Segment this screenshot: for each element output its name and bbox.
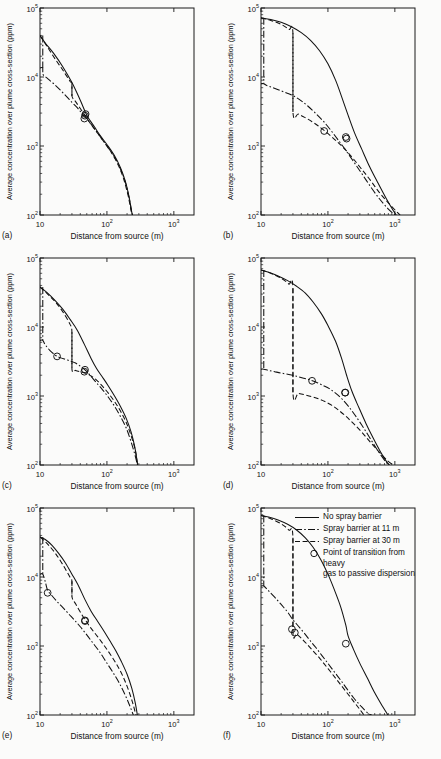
legend-item-barrier-30m: Spray barrier at 30 m [294, 536, 420, 547]
y-tick-exponent: 2 [35, 460, 38, 466]
y-axis-title: Average concentration over plume cross-s… [2, 255, 16, 468]
axis-ticks-e [40, 508, 174, 715]
y-tick-exponent: 2 [35, 710, 38, 716]
chart-panel-f: 10510410310210102103Average concentratio… [220, 500, 441, 759]
x-tick-mantissa: 10 [257, 220, 265, 229]
y-axis-title-text: Average concentration over plume cross-s… [226, 23, 235, 200]
x-tick-exponent: 3 [398, 718, 401, 724]
y-tick-label: 105 [18, 503, 38, 514]
curves-e [40, 537, 137, 715]
x-axis-title-text: Distance from source (m) [291, 481, 384, 491]
y-tick-mantissa: 10 [248, 4, 256, 13]
legend: No spray barrierSpray barrier at 11 mSpr… [294, 512, 420, 581]
legend-key-barrier-30m-icon [294, 536, 320, 547]
y-tick-label: 104 [18, 322, 38, 333]
y-tick-label: 105 [239, 253, 259, 264]
axis-frame-b [261, 8, 415, 215]
y-axis-title-text: Average concentration over plume cross-s… [5, 23, 14, 200]
y-tick-label: 104 [18, 572, 38, 583]
y-tick-exponent: 5 [35, 253, 38, 259]
x-tick-label: 103 [379, 468, 411, 479]
legend-label-barrier-11m: Spray barrier at 11 m [320, 524, 399, 535]
y-axis-title: Average concentration over plume cross-s… [2, 5, 16, 218]
axis-frame-c [40, 258, 194, 465]
y-tick-label: 104 [239, 572, 259, 583]
x-tick-mantissa: 10 [257, 470, 265, 479]
series-line-dashed [40, 287, 138, 465]
x-tick-exponent: 2 [331, 218, 334, 224]
series-line-dash-dot [261, 84, 395, 215]
curves-d [261, 270, 393, 465]
panel-letter-e: (e) [2, 730, 12, 740]
x-tick-mantissa: 10 [389, 470, 397, 479]
legend-label-transition: Point of transition from heavygas to pas… [320, 548, 420, 580]
x-tick-mantissa: 10 [101, 470, 109, 479]
y-tick-mantissa: 10 [248, 323, 256, 332]
y-tick-exponent: 3 [35, 391, 38, 397]
x-tick-mantissa: 10 [168, 470, 176, 479]
x-axis-title: Distance from source (m) [40, 481, 194, 491]
y-tick-mantissa: 10 [248, 504, 256, 513]
y-tick-label: 103 [239, 641, 259, 652]
axis-frame-a [40, 8, 194, 215]
y-tick-mantissa: 10 [27, 573, 35, 582]
legend-label-line1: Point of transition from heavy [323, 548, 420, 569]
y-tick-mantissa: 10 [248, 142, 256, 151]
y-tick-mantissa: 10 [27, 392, 35, 401]
x-tick-exponent: 3 [177, 718, 180, 724]
y-tick-label: 103 [18, 641, 38, 652]
x-tick-mantissa: 10 [36, 220, 44, 229]
curves-c [40, 287, 138, 465]
panel-letter-d: (d) [223, 480, 233, 490]
figure-grid: 10510410310210102103Average concentratio… [0, 0, 441, 759]
chart-panel-b: 10510410310210102103Average concentratio… [220, 0, 441, 250]
x-tick-label: 10 [245, 468, 277, 479]
legend-item-no-barrier: No spray barrier [294, 512, 420, 523]
y-tick-mantissa: 10 [248, 254, 256, 263]
series-line-dash-dot [40, 68, 133, 216]
y-tick-mantissa: 10 [27, 73, 35, 82]
y-tick-mantissa: 10 [27, 504, 35, 513]
y-tick-exponent: 4 [35, 322, 38, 328]
y-tick-exponent: 5 [256, 3, 259, 9]
y-tick-mantissa: 10 [248, 573, 256, 582]
y-axis-title-text: Average concentration over plume cross-s… [5, 273, 14, 450]
transition-point-marker [342, 389, 349, 396]
y-tick-exponent: 5 [256, 253, 259, 259]
x-tick-label: 10 [24, 468, 56, 479]
x-tick-label: 10 [245, 218, 277, 229]
x-tick-mantissa: 10 [101, 220, 109, 229]
y-tick-mantissa: 10 [27, 323, 35, 332]
x-tick-label: 10 [245, 718, 277, 729]
transition-point-marker [342, 640, 349, 647]
x-tick-exponent: 3 [177, 218, 180, 224]
y-tick-label: 103 [18, 141, 38, 152]
y-tick-mantissa: 10 [27, 254, 35, 263]
y-tick-exponent: 4 [35, 572, 38, 578]
y-axis-title: Average concentration over plume cross-s… [2, 505, 16, 718]
series-line-solid [261, 270, 389, 465]
legend-label-line1: No spray barrier [323, 512, 382, 523]
x-tick-exponent: 2 [331, 718, 334, 724]
y-tick-exponent: 4 [35, 72, 38, 78]
x-tick-exponent: 3 [398, 218, 401, 224]
x-tick-mantissa: 10 [322, 220, 330, 229]
x-tick-label: 10 [24, 218, 56, 229]
panel-letter-c: (c) [2, 480, 12, 490]
x-tick-label: 102 [312, 218, 344, 229]
legend-label-line1: Spray barrier at 30 m [323, 536, 400, 547]
x-tick-exponent: 2 [110, 218, 113, 224]
series-line-solid [40, 537, 137, 715]
y-tick-label: 103 [239, 391, 259, 402]
x-axis-title-text: Distance from source (m) [291, 231, 384, 241]
x-axis-title: Distance from source (m) [40, 731, 194, 741]
x-tick-exponent: 2 [331, 468, 334, 474]
y-tick-label: 105 [18, 3, 38, 14]
y-axis-title-text: Average concentration over plume cross-s… [226, 523, 235, 700]
axis-frame-e [40, 508, 194, 715]
axis-ticks-c [40, 258, 174, 465]
x-tick-exponent: 2 [110, 468, 113, 474]
y-tick-mantissa: 10 [27, 642, 35, 651]
y-tick-mantissa: 10 [248, 73, 256, 82]
legend-label-barrier-30m: Spray barrier at 30 m [320, 536, 400, 547]
